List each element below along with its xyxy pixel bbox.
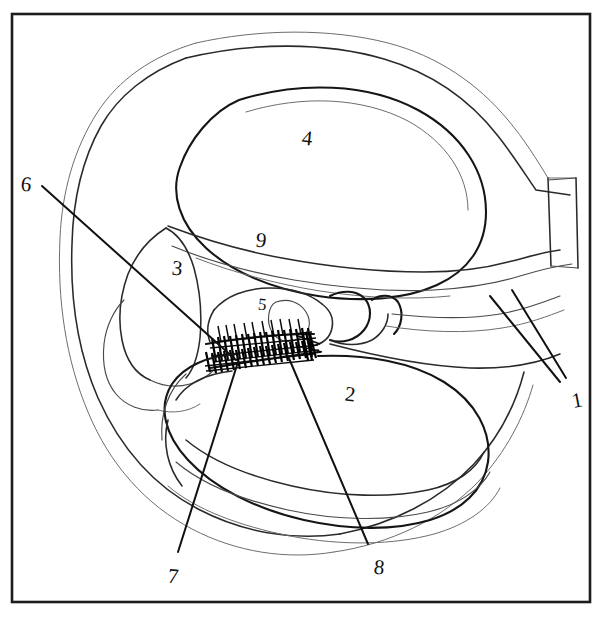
leader-line-1-cross	[490, 296, 560, 382]
leader-line-7	[178, 362, 238, 552]
region-membrane	[168, 226, 572, 298]
label-7: 7	[167, 566, 180, 588]
label-2: 2	[344, 384, 357, 406]
label-3: 3	[171, 258, 184, 280]
label-6: 6	[20, 174, 33, 196]
region-outer-capsule	[59, 32, 576, 555]
label-4: 4	[301, 128, 314, 150]
figure-frame	[12, 14, 590, 602]
label-8: 8	[373, 557, 386, 579]
figure-drawing	[0, 0, 603, 617]
label-5: 5	[257, 296, 267, 314]
figure-root: 123456789	[0, 0, 603, 617]
region-hatched-organ	[205, 319, 322, 373]
region-lower-chamber	[162, 354, 500, 543]
label-9: 9	[255, 230, 268, 252]
region-right-strip	[548, 178, 578, 268]
leader-lines	[42, 186, 566, 552]
